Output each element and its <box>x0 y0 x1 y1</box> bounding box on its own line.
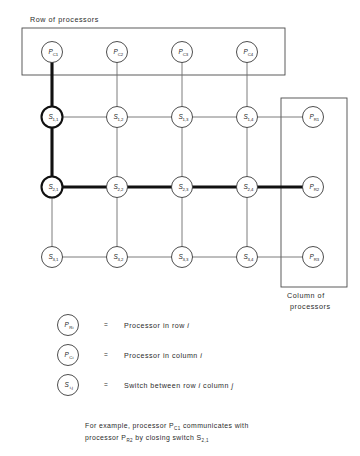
node-subscript: 3,2 <box>117 257 124 262</box>
vertical-links <box>52 52 247 257</box>
legend-text-after: column <box>201 382 232 390</box>
legend-row-1: PRi=Processor in row i <box>58 315 190 336</box>
switch-3-4: S3,4 <box>237 247 258 268</box>
caption-line2-a: processor P <box>85 434 126 442</box>
processor-row-3: PR3 <box>303 247 324 268</box>
switch-1-2: S1,2 <box>107 107 128 128</box>
caption-line1-a: For example, processor P <box>85 422 174 430</box>
legend-symbol-3: Si,j <box>58 375 79 396</box>
legend-symbol-2: PCi <box>58 345 79 366</box>
caption-line-2: processor PR2 by closing switch S2,1 <box>85 434 209 443</box>
node-subscript: 3,4 <box>247 257 254 262</box>
processor-row-1: PR1 <box>303 107 324 128</box>
legend-equals: = <box>104 321 108 328</box>
node-subscript: 2,4 <box>247 187 254 192</box>
node-subscript: 1,1 <box>52 117 59 122</box>
switch-1-3: S1,3 <box>172 107 193 128</box>
node-subscript: R1 <box>314 117 320 122</box>
caption-line1-b: communicates with <box>181 422 249 429</box>
switch-3-1: S3,1 <box>42 247 63 268</box>
processor-row-2: PR2 <box>303 177 324 198</box>
legend-text-before: Processor in row <box>124 322 187 330</box>
node-subscript: 1,2 <box>117 117 124 122</box>
node-subscript: Ri <box>69 325 73 330</box>
node-subscript: C2 <box>118 52 124 57</box>
node-subscript: 2,1 <box>52 187 59 192</box>
legend-text-before: Switch between row <box>124 382 199 390</box>
legend-text-before: Processor in column <box>124 352 200 360</box>
caption-line-1: For example, processor PC1 communicates … <box>85 422 249 431</box>
legend-description: Switch between row i column j <box>124 382 234 390</box>
node-subscript: Ci <box>69 355 73 360</box>
node-subscript: 1,4 <box>247 117 254 122</box>
legend-row-3: Si,j=Switch between row i column j <box>58 375 234 396</box>
switch-2-3: S2,3 <box>172 177 193 198</box>
switch-3-3: S3,3 <box>172 247 193 268</box>
processor-column-3: PC3 <box>172 42 193 63</box>
node-subscript: R2 <box>314 187 320 192</box>
node-subscript: 3,1 <box>52 257 59 262</box>
node-subscript: R3 <box>314 257 320 262</box>
processor-column-4: PC4 <box>237 42 258 63</box>
legend-row-2: PCi=Processor in column i <box>58 345 203 366</box>
legend-index: i <box>187 322 189 330</box>
legend-symbol-1: PRi <box>58 315 79 336</box>
legend: PRi=Processor in row iPCi=Processor in c… <box>58 315 234 396</box>
switch-3-2: S3,2 <box>107 247 128 268</box>
column-of-processors-label-line1: Column of <box>287 291 325 300</box>
node-subscript: C4 <box>248 52 254 57</box>
legend-equals: = <box>104 351 108 358</box>
crossbar-diagram: PC1PC2PC3PC4PR1PR2PR3S1,1S1,2S1,3S1,4S2,… <box>0 0 360 456</box>
example-caption: For example, processor PC1 communicates … <box>85 422 249 443</box>
diagram-canvas: PC1PC2PC3PC4PR1PR2PR3S1,1S1,2S1,3S1,4S2,… <box>0 0 360 456</box>
caption-line2-sub2: 2,1 <box>202 438 210 443</box>
processor-column-2: PC2 <box>107 42 128 63</box>
legend-description: Processor in column i <box>124 352 202 360</box>
node-subscript: C1 <box>53 52 59 57</box>
legend-index-2: j <box>230 382 233 390</box>
node-subscript: 2,2 <box>117 187 124 192</box>
legend-description: Processor in row i <box>124 322 189 330</box>
node-subscript: i,j <box>70 385 73 390</box>
caption-line2-b: by closing switch S <box>133 434 202 442</box>
legend-equals: = <box>104 381 108 388</box>
switch-2-2: S2,2 <box>107 177 128 198</box>
node-symbol: S <box>64 381 69 388</box>
legend-index: i <box>200 352 202 360</box>
row-of-processors-label: Row of processors <box>30 15 99 24</box>
node-subscript: 2,3 <box>182 187 189 192</box>
processor-column-1: PC1 <box>42 42 63 63</box>
switch-2-4: S2,4 <box>237 177 258 198</box>
switch-1-1: S1,1 <box>42 107 63 128</box>
switch-2-1: S2,1 <box>42 177 63 198</box>
switch-1-4: S1,4 <box>237 107 258 128</box>
node-subscript: 1,3 <box>182 117 189 122</box>
node-subscript: C3 <box>183 52 189 57</box>
column-of-processors-label-line2: processors <box>290 302 331 311</box>
node-subscript: 3,3 <box>182 257 189 262</box>
